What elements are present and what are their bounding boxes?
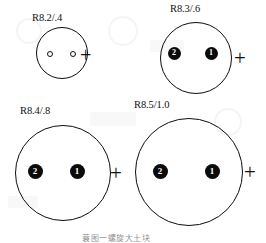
nucleus-2-label: 2: [158, 167, 163, 176]
nucleus-1-label: 1: [210, 167, 215, 176]
specimen-ring: [135, 118, 243, 226]
figure-caption: 蓑图一螺旋大土块: [82, 232, 150, 243]
specimen-label: R8.5/1.0: [134, 100, 169, 111]
plus-sign: +: [244, 162, 256, 183]
figure-canvas: R8.2/.421+R8.3/.621+R8.4/.821+R8.5/1.021…: [0, 0, 266, 243]
specimen-spec-r85: R8.5/1.021+: [0, 0, 266, 243]
nucleus-2-dot: 2: [153, 164, 168, 179]
nucleus-1-dot: 1: [205, 164, 220, 179]
